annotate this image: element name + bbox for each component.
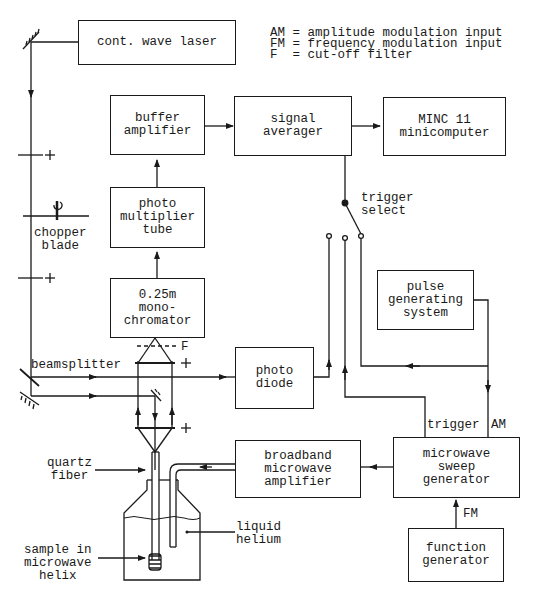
quartz-fiber-label: quartz fiber xyxy=(47,457,92,483)
photodiode-block: photo diode xyxy=(235,347,314,409)
sweep-generator-label: microwave sweep generator xyxy=(423,448,491,487)
photomultiplier-block: photo multiplier tube xyxy=(110,187,205,248)
chopper-label: chopper blade xyxy=(34,227,87,253)
chopper-icon xyxy=(54,201,62,220)
legend-f: F = cut-off filter xyxy=(270,50,503,61)
trigger-select-label: trigger select xyxy=(361,192,414,218)
monochromator-label: 0.25m mono- chromator xyxy=(124,289,192,328)
minicomputer-label: MINC 11 minicomputer xyxy=(399,114,489,140)
fm-label: FM xyxy=(463,508,478,521)
sample-label: sample in microwave helix xyxy=(24,544,92,583)
laser-block: cont. wave laser xyxy=(78,20,236,65)
signal-averager-label: signal averager xyxy=(263,113,323,139)
trigger-label: trigger xyxy=(427,419,480,432)
buffer-amplifier-label: buffer amplifier xyxy=(124,112,192,138)
mirror-bottom-icon xyxy=(20,392,39,409)
photomultiplier-label: photo multiplier tube xyxy=(120,198,195,237)
filter-label: F xyxy=(181,341,189,354)
signal-averager-block: signal averager xyxy=(234,96,352,156)
photodiode-label: photo diode xyxy=(256,365,294,391)
monochromator-block: 0.25m mono- chromator xyxy=(110,278,205,338)
pulse-generator-block: pulse generating system xyxy=(377,270,474,330)
liquid-helium-label: liquid helium xyxy=(236,521,281,547)
am-label: AM xyxy=(491,419,506,432)
buffer-amplifier-block: buffer amplifier xyxy=(110,95,205,155)
function-generator-label: function generator xyxy=(422,542,490,568)
minicomputer-block: MINC 11 minicomputer xyxy=(383,97,506,156)
helix-icon xyxy=(149,554,161,570)
laser-label: cont. wave laser xyxy=(97,36,217,49)
sweep-generator-block: microwave sweep generator xyxy=(393,437,520,498)
legend: AM = amplitude modulation input FM = fre… xyxy=(270,28,503,61)
beamsplitter-label: beamsplitter xyxy=(31,359,121,372)
microwave-amplifier-label: broadband microwave amplifier xyxy=(264,450,332,489)
function-generator-block: function generator xyxy=(408,528,504,582)
microwave-amplifier-block: broadband microwave amplifier xyxy=(235,440,361,498)
pulse-generator-label: pulse generating system xyxy=(388,281,463,320)
